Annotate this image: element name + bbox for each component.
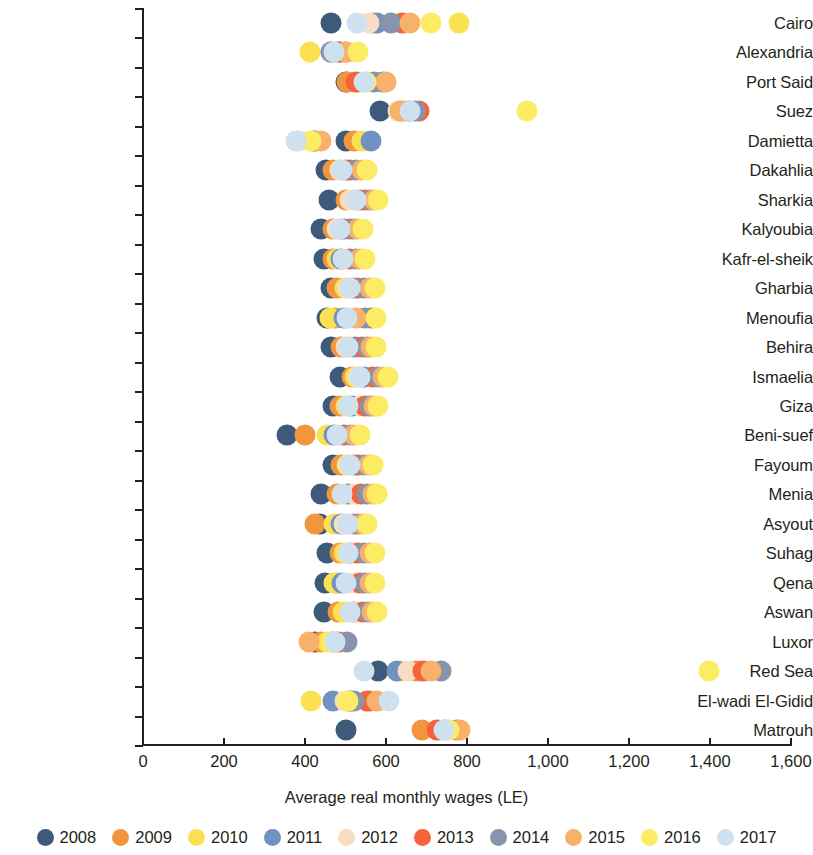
y-axis-tick	[135, 421, 143, 423]
legend-label: 2010	[211, 828, 248, 847]
y-axis-tick	[135, 303, 143, 305]
data-point	[347, 42, 368, 63]
x-axis-tick-label: 1,000	[527, 752, 568, 771]
legend-swatch-icon	[641, 829, 658, 846]
data-point	[300, 42, 321, 63]
data-point	[353, 71, 374, 92]
data-point	[327, 425, 348, 446]
data-point	[325, 631, 346, 652]
legend-label: 2009	[135, 828, 172, 847]
legend-label: 2016	[664, 828, 701, 847]
data-point	[299, 631, 320, 652]
data-point	[448, 12, 469, 33]
legend-swatch-icon	[565, 829, 582, 846]
y-axis-tick	[135, 568, 143, 570]
x-axis-title: Average real monthly wages (LE)	[0, 788, 813, 807]
data-point	[321, 12, 342, 33]
legend-label: 2015	[588, 828, 625, 847]
legend-item[interactable]: 2008	[37, 828, 97, 847]
legend-swatch-icon	[112, 829, 129, 846]
legend-item[interactable]: 2017	[717, 828, 777, 847]
y-axis-tick	[135, 480, 143, 482]
data-point	[340, 278, 361, 299]
y-axis-tick	[135, 598, 143, 600]
data-point	[376, 71, 397, 92]
data-point	[346, 12, 367, 33]
y-axis-tick	[135, 450, 143, 452]
y-axis-tick	[135, 716, 143, 718]
data-point	[345, 189, 366, 210]
y-axis-tick	[135, 539, 143, 541]
data-point	[356, 513, 377, 534]
y-axis-tick	[135, 185, 143, 187]
x-axis-tick-label: 0	[138, 752, 147, 771]
data-point	[338, 543, 359, 564]
plot-area	[143, 8, 791, 745]
legend-item[interactable]: 2013	[414, 828, 474, 847]
legend-label: 2013	[437, 828, 474, 847]
data-point	[337, 513, 358, 534]
x-axis-tick-label: 800	[453, 752, 481, 771]
data-point	[367, 189, 388, 210]
data-point	[380, 12, 401, 33]
data-point	[367, 602, 388, 623]
legend-swatch-icon	[490, 829, 507, 846]
data-point	[349, 425, 370, 446]
legend-item[interactable]: 2014	[490, 828, 550, 847]
data-point	[400, 12, 421, 33]
x-axis-tick-label: 1,400	[689, 752, 730, 771]
data-point	[340, 454, 361, 475]
legend-item[interactable]: 2015	[565, 828, 625, 847]
data-point	[364, 278, 385, 299]
data-point	[295, 425, 316, 446]
data-point	[421, 12, 442, 33]
legend-label: 2014	[513, 828, 550, 847]
legend-swatch-icon	[338, 829, 355, 846]
data-point	[332, 248, 353, 269]
data-point	[363, 454, 384, 475]
data-point	[350, 366, 371, 387]
data-point	[353, 661, 374, 682]
legend-item[interactable]: 2010	[188, 828, 248, 847]
legend-swatch-icon	[717, 829, 734, 846]
data-point	[301, 690, 322, 711]
data-point	[433, 720, 454, 741]
data-point	[516, 101, 537, 122]
y-axis-tick	[135, 244, 143, 246]
x-axis-tick-label: 1,200	[608, 752, 649, 771]
dot-plot-chart: CairoAlexandriaPort SaidSuezDamiettaDaka…	[0, 0, 813, 855]
y-axis-tick	[135, 8, 143, 10]
data-point	[367, 484, 388, 505]
data-point	[336, 572, 357, 593]
y-axis-tick	[135, 391, 143, 393]
data-point	[332, 484, 353, 505]
legend-swatch-icon	[188, 829, 205, 846]
data-point	[356, 160, 377, 181]
data-point	[332, 160, 353, 181]
data-point	[352, 219, 373, 240]
legend-item[interactable]: 2016	[641, 828, 701, 847]
data-point	[365, 572, 386, 593]
data-point	[365, 337, 386, 358]
data-point	[400, 101, 421, 122]
legend-item[interactable]: 2011	[264, 828, 322, 847]
data-point	[324, 42, 345, 63]
legend-item[interactable]: 2009	[112, 828, 172, 847]
data-point	[365, 307, 386, 328]
data-point	[305, 513, 326, 534]
y-axis-tick	[135, 627, 143, 629]
legend-label: 2012	[361, 828, 398, 847]
legend-item[interactable]: 2012	[338, 828, 398, 847]
legend-swatch-icon	[37, 829, 54, 846]
data-point	[338, 337, 359, 358]
data-point	[336, 720, 357, 741]
legend-label: 2011	[287, 828, 322, 847]
x-axis-tick-label: 400	[291, 752, 319, 771]
y-axis-tick	[135, 126, 143, 128]
y-axis-tick	[135, 37, 143, 39]
y-axis-tick	[135, 657, 143, 659]
y-axis-tick	[135, 686, 143, 688]
data-point	[378, 366, 399, 387]
y-axis-tick	[135, 155, 143, 157]
y-axis-tick	[135, 96, 143, 98]
